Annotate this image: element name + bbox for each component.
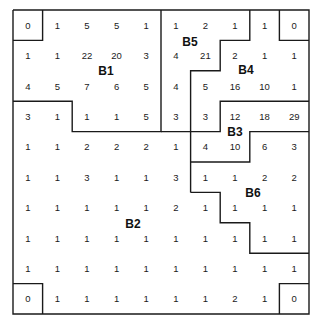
cell-value: 1 [173, 293, 178, 304]
cell-value: 1 [84, 111, 89, 122]
cell-value: 1 [173, 141, 178, 152]
cell-value: 18 [259, 111, 270, 122]
cell-value: 29 [289, 111, 300, 122]
cell-value: 5 [144, 81, 149, 92]
cell-value: 1 [292, 81, 297, 92]
cell-value: 3 [292, 141, 297, 152]
cell-value: 3 [25, 111, 30, 122]
region-label-b5: B5 [182, 35, 198, 49]
cell-value: 1 [232, 233, 237, 244]
cell-value: 1 [114, 202, 119, 213]
cell-value: 1 [232, 263, 237, 274]
cell-value: 4 [173, 81, 178, 92]
cell-value: 21 [200, 50, 211, 61]
cell-value: 1 [144, 172, 149, 183]
cell-value: 1 [25, 233, 30, 244]
cell-value: 3 [173, 172, 178, 183]
cell-value: 1 [262, 293, 267, 304]
cell-value: 1 [292, 233, 297, 244]
cell-value: 1 [232, 20, 237, 31]
cell-value: 1 [262, 50, 267, 61]
cell-value: 1 [173, 233, 178, 244]
cell-value: 1 [203, 293, 208, 304]
grid-canvas: 0155112110112220342121145765451610131115… [0, 0, 322, 324]
cell-value: 1 [55, 233, 60, 244]
cell-value: 0 [292, 20, 297, 31]
cell-value: 1 [114, 263, 119, 274]
cell-value: 2 [144, 141, 149, 152]
cell-value: 0 [25, 20, 30, 31]
cell-value: 1 [55, 263, 60, 274]
cell-value: 1 [25, 172, 30, 183]
cell-value: 5 [203, 81, 208, 92]
cell-value: 2 [292, 172, 297, 183]
region-label-b1: B1 [98, 64, 114, 78]
cell-value: 1 [292, 263, 297, 274]
cell-value: 2 [114, 141, 119, 152]
cell-value: 1 [25, 141, 30, 152]
cell-value: 1 [203, 172, 208, 183]
cell-value: 6 [114, 81, 119, 92]
cell-value: 1 [55, 293, 60, 304]
region-label-b4: B4 [238, 63, 254, 77]
cell-value: 0 [25, 293, 30, 304]
cell-value: 1 [232, 202, 237, 213]
cell-value: 7 [84, 81, 89, 92]
cell-value: 1 [144, 202, 149, 213]
cell-value: 12 [230, 111, 241, 122]
cell-value: 4 [173, 50, 178, 61]
cell-value: 1 [25, 50, 30, 61]
cell-value: 2 [232, 293, 237, 304]
cell-value: 4 [203, 141, 208, 152]
cell-value: 1 [55, 172, 60, 183]
cell-value: 1 [144, 263, 149, 274]
cell-value: 10 [230, 141, 241, 152]
cell-value: 1 [84, 202, 89, 213]
cell-value: 1 [203, 233, 208, 244]
cell-value: 22 [82, 50, 93, 61]
cell-value: 5 [144, 111, 149, 122]
cell-value: 2 [173, 202, 178, 213]
cell-value: 1 [173, 20, 178, 31]
cell-value: 5 [55, 81, 60, 92]
cell-value: 2 [84, 141, 89, 152]
cell-value: 3 [173, 111, 178, 122]
cell-value: 1 [262, 233, 267, 244]
region-label-b2: B2 [125, 217, 141, 231]
cell-value: 1 [144, 233, 149, 244]
cell-value: 1 [114, 172, 119, 183]
cell-value: 2 [232, 50, 237, 61]
cell-value: 10 [259, 81, 270, 92]
cell-value: 5 [114, 20, 119, 31]
cell-value: 1 [55, 20, 60, 31]
cell-value: 1 [84, 263, 89, 274]
cell-value: 1 [55, 111, 60, 122]
cell-value: 3 [203, 111, 208, 122]
cell-value: 1 [292, 202, 297, 213]
cell-value: 5 [84, 20, 89, 31]
cell-value: 1 [262, 20, 267, 31]
cell-values: 0155112110112220342121145765451610131115… [25, 20, 299, 305]
cell-value: 3 [144, 50, 149, 61]
region-label-b3: B3 [227, 125, 243, 139]
cell-value: 1 [144, 20, 149, 31]
cell-value: 2 [262, 172, 267, 183]
cell-value: 4 [25, 81, 30, 92]
cell-value: 1 [173, 263, 178, 274]
cell-value: 1 [55, 202, 60, 213]
cell-value: 6 [262, 141, 267, 152]
cell-value: 1 [55, 141, 60, 152]
cell-value: 1 [25, 263, 30, 274]
cell-value: 1 [203, 263, 208, 274]
cell-value: 16 [230, 81, 241, 92]
region-label-b6: B6 [245, 186, 261, 200]
zone-grid-diagram: 0155112110112220342121145765451610131115… [0, 0, 322, 324]
cell-value: 1 [292, 50, 297, 61]
cell-value: 1 [25, 202, 30, 213]
cell-value: 1 [262, 202, 267, 213]
cell-value: 1 [114, 293, 119, 304]
cell-value: 1 [114, 111, 119, 122]
cell-value: 3 [84, 172, 89, 183]
cell-value: 20 [111, 50, 122, 61]
cell-value: 0 [292, 293, 297, 304]
